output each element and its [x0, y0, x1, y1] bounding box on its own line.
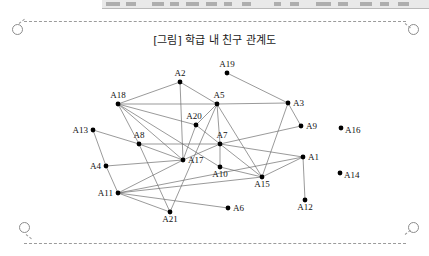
node-label-a18: A18 [110, 90, 126, 100]
node-dot-a18[interactable] [116, 102, 121, 107]
graph-edge [118, 82, 180, 104]
graph-edge [139, 144, 170, 212]
graph-node-a9[interactable]: A9 [299, 121, 318, 131]
graph-node-a10[interactable]: A10 [212, 165, 228, 179]
node-label-a4: A4 [90, 161, 101, 171]
node-label-a6: A6 [233, 203, 244, 213]
node-label-a10: A10 [212, 169, 228, 179]
graph-node-a3[interactable]: A3 [286, 98, 305, 108]
graph-node-a4[interactable]: A4 [90, 161, 108, 171]
graph-node-a6[interactable]: A6 [226, 203, 245, 213]
node-dot-a3[interactable] [286, 101, 291, 106]
graph-edge [217, 103, 288, 104]
graph-edge [118, 193, 170, 212]
node-dot-a17[interactable] [181, 158, 186, 163]
graph-node-a20[interactable]: A20 [186, 111, 202, 127]
graph-edge [93, 130, 139, 144]
node-label-a12: A12 [297, 202, 313, 212]
node-dot-a5[interactable] [215, 102, 220, 107]
graph-node-a15[interactable]: A15 [254, 175, 270, 189]
graph-edge [139, 144, 183, 160]
node-label-a20: A20 [186, 111, 202, 121]
graph-node-a7[interactable]: A7 [217, 130, 228, 146]
graph-edge [118, 157, 303, 193]
node-dot-a16[interactable] [339, 126, 344, 131]
graph-node-a14[interactable]: A14 [338, 170, 360, 180]
node-dot-a8[interactable] [137, 142, 142, 147]
node-label-a11: A11 [98, 188, 113, 198]
graph-node-a21[interactable]: A21 [162, 210, 178, 224]
node-label-a16: A16 [345, 125, 361, 135]
graph-node-a13[interactable]: A13 [73, 125, 96, 135]
node-label-a7: A7 [217, 130, 228, 140]
node-dot-a2[interactable] [178, 80, 183, 85]
graph-node-a12[interactable]: A12 [297, 198, 313, 212]
node-label-a21: A21 [162, 214, 178, 224]
node-label-a3: A3 [293, 98, 304, 108]
node-label-a2: A2 [175, 68, 186, 78]
node-dot-a11[interactable] [116, 191, 121, 196]
node-dot-a14[interactable] [338, 171, 343, 176]
graph-edge [303, 157, 305, 200]
node-label-a19: A19 [219, 59, 235, 69]
node-dot-a6[interactable] [226, 206, 231, 211]
graph-edge [118, 177, 262, 193]
graph-node-a19[interactable]: A19 [219, 59, 235, 75]
node-label-a1: A1 [308, 152, 319, 162]
graph-edge [227, 73, 288, 103]
graph-edge [220, 144, 303, 157]
node-label-a8: A8 [134, 130, 145, 140]
node-dot-a7[interactable] [218, 142, 223, 147]
node-label-a14: A14 [344, 170, 360, 180]
node-dot-a9[interactable] [299, 124, 304, 129]
node-dot-a20[interactable] [194, 123, 199, 128]
graph-edge [118, 160, 183, 193]
node-label-a5: A5 [214, 90, 225, 100]
node-dot-a19[interactable] [225, 71, 230, 76]
node-label-a13: A13 [73, 125, 89, 135]
node-dot-a4[interactable] [104, 164, 109, 169]
graph-edge [106, 160, 183, 166]
node-dot-a13[interactable] [91, 128, 96, 133]
graph-edge [180, 82, 217, 104]
node-dot-a1[interactable] [301, 155, 306, 160]
graph-node-a11[interactable]: A11 [98, 188, 121, 198]
graph-node-a16[interactable]: A16 [339, 125, 361, 135]
node-label-a17: A17 [188, 155, 204, 165]
node-label-a9: A9 [306, 121, 317, 131]
graph-node-a2[interactable]: A2 [175, 68, 186, 84]
friendship-network-graph: A1A2A3A4A5A6A7A8A9A10A11A12A13A14A15A16A… [0, 0, 429, 256]
node-label-a15: A15 [254, 179, 270, 189]
